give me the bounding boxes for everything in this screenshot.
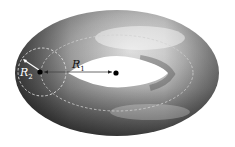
torus-diagram [0,0,235,147]
major-radius-label: R1 [72,59,85,73]
minor-radius-label: R2 [20,67,33,81]
tube-center-point [37,69,42,74]
center-point [113,70,118,75]
